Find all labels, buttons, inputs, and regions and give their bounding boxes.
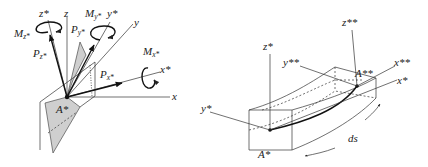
label-x-star-star: x**: [393, 56, 410, 68]
label-x: x: [171, 90, 177, 102]
y-star-star-axis: [300, 66, 357, 86]
label-y-star: y*: [106, 7, 118, 19]
point-a-star: [65, 95, 69, 99]
moment-arc-mx: [142, 68, 155, 88]
label-z-star-star: z**: [341, 16, 358, 28]
label-x-star: x*: [159, 63, 171, 75]
label-a-star: A*: [55, 103, 69, 115]
ds-arrow-lower: [305, 148, 335, 156]
label-ds: ds: [348, 132, 358, 144]
label-y-star-star: y**: [282, 56, 299, 68]
force-vector-pz: [50, 35, 67, 97]
label-moment-mx: Mx*: [142, 45, 160, 59]
moment-arc-my: [91, 26, 115, 40]
hidden-edge-bottom: [249, 91, 376, 130]
label-z-star: z*: [262, 40, 273, 52]
beam-side-edge: [292, 78, 376, 150]
x-star-axis: [270, 80, 397, 130]
label-y-star: y*: [200, 102, 212, 114]
label-y: y: [133, 16, 139, 28]
label-force-pz: Pz*: [32, 47, 47, 61]
label-moment-mz: Mz*: [13, 27, 30, 41]
label-a-star-star: A**: [354, 67, 373, 79]
label-z-star: z*: [38, 7, 49, 19]
label-z: z: [63, 7, 69, 19]
y-star-axis: [210, 112, 270, 130]
label-a-star: A*: [257, 148, 271, 160]
label-force-px: Px*: [99, 68, 114, 82]
diagram-canvas: z* z y* y x* x A* Mz* Pz* My* Py* Mx* Px…: [0, 0, 428, 167]
left-figure-force-diagram: z* z y* y x* x A* Mz* Pz* My* Py* Mx* Px…: [13, 7, 177, 153]
right-figure-beam-element: z* z** y* y** x* x** A* A** ds: [200, 16, 410, 160]
label-x-star: x*: [396, 74, 408, 86]
label-moment-my: My*: [84, 7, 102, 21]
label-force-py: Py*: [70, 23, 85, 37]
hidden-mid-line: [262, 80, 362, 110]
force-vector-px: [67, 83, 122, 97]
